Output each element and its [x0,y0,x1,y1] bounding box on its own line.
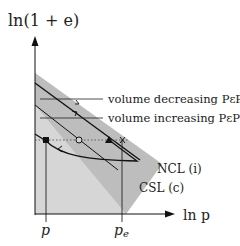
csl-label: CSL (c) [139,181,184,195]
y-axis-label: ln(1 + e) [8,11,79,30]
annotation-volume-decreasing: volume decreasing PεPs [107,92,240,106]
diagram-canvas: ln(1 + e) ln p volume decreasing PεPs vo… [0,0,240,246]
annotation-volume-increasing: volume increasing PεPs [107,111,240,125]
ncl-label: NCL (i) [157,162,202,176]
x-axis-label: ln p [183,207,210,223]
x-axis-arrow-icon [165,211,175,218]
circle-marker [76,137,82,143]
tick-label-p: p [41,222,50,238]
y-axis-arrow-icon [32,36,39,46]
tick-label-pe: pe [114,222,129,239]
square-marker [43,137,49,143]
